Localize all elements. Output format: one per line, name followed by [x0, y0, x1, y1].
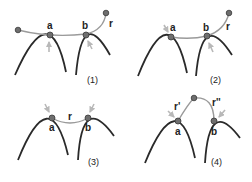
- endpoint-node: [15, 27, 21, 33]
- label-a: a: [170, 22, 176, 33]
- connector-r: [18, 13, 106, 35]
- label-a: a: [175, 126, 181, 137]
- panel-caption: (1): [87, 75, 98, 85]
- endpoint-node: [226, 10, 232, 16]
- connector-r-double-prime: [194, 98, 214, 121]
- label-b: b: [211, 126, 217, 137]
- label-r: r: [109, 18, 113, 29]
- node-b: [85, 115, 91, 121]
- label-r: r: [226, 21, 230, 32]
- label-a: a: [49, 122, 55, 133]
- right-arch-curve: [78, 119, 114, 160]
- left-arch-curve: [15, 34, 66, 75]
- node-a: [49, 115, 55, 121]
- node-b: [83, 32, 89, 38]
- panel-caption: (3): [88, 157, 99, 167]
- panel-3: a r b (3): [18, 104, 114, 167]
- left-arch-curve: [18, 119, 68, 160]
- left-arch-curve: [138, 35, 187, 76]
- label-r-double-prime: r'': [212, 97, 221, 108]
- label-r-prime: r': [174, 101, 180, 112]
- top-node: [191, 95, 197, 101]
- label-b: b: [82, 20, 88, 31]
- endpoint-node: [103, 10, 109, 16]
- label-r: r: [68, 111, 72, 122]
- panel-caption: (4): [211, 157, 222, 167]
- node-a: [175, 118, 181, 124]
- arrow-icon: [45, 104, 49, 112]
- right-arch-curve: [196, 36, 232, 76]
- arrow-icon: [90, 104, 94, 112]
- panel-1: a b r (1): [15, 10, 113, 85]
- left-arch-curve: [145, 121, 195, 163]
- node-b: [204, 33, 210, 39]
- panel-caption: (2): [210, 75, 221, 85]
- node-a: [168, 34, 174, 40]
- diagram-canvas: a b r (1) a b r (2) a r b (3): [0, 0, 252, 182]
- node-a: [47, 32, 53, 38]
- label-b: b: [203, 22, 209, 33]
- panel-2: a b r (2): [138, 10, 232, 85]
- arrow-icon: [88, 41, 92, 49]
- label-b: b: [85, 122, 91, 133]
- arrow-icon: [164, 25, 168, 32]
- panel-4: r' r'' a b (4): [145, 95, 240, 167]
- arrow-icon: [219, 110, 225, 117]
- right-arch-curve: [76, 34, 110, 75]
- node-b: [211, 118, 217, 124]
- label-a: a: [47, 20, 53, 31]
- connector-r: [171, 13, 229, 38]
- arrow-icon: [209, 43, 213, 52]
- connector-r-prime: [178, 98, 194, 121]
